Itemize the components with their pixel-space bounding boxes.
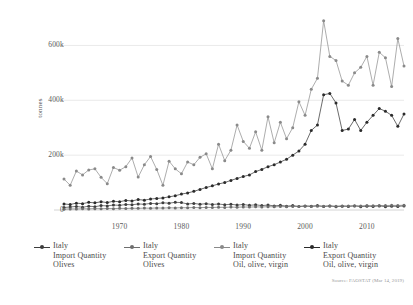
data-point [223, 203, 226, 206]
legend-item[interactable]: ItalyImport QuantityOlives [34, 241, 124, 270]
data-point [174, 206, 177, 209]
legend-item[interactable]: ItalyImport QuantityOil, olive, virgin [214, 241, 304, 270]
data-point [211, 206, 214, 209]
data-point [205, 202, 208, 205]
legend-label-line3: Oil, olive, virgin [233, 260, 288, 270]
data-point [118, 169, 121, 172]
data-point [396, 125, 399, 128]
data-point [63, 178, 66, 181]
data-point [335, 59, 338, 62]
data-point [365, 204, 368, 207]
data-point [378, 204, 381, 207]
data-point [242, 140, 245, 143]
data-point [137, 207, 140, 210]
data-point [304, 114, 307, 117]
legend-label: ItalyImport QuantityOlives [53, 241, 106, 270]
data-point [192, 190, 195, 193]
data-point [186, 206, 189, 209]
data-point [328, 92, 331, 95]
series-markers [63, 92, 406, 206]
data-point [186, 161, 189, 164]
data-point [93, 207, 96, 210]
chart-legend: ItalyImport QuantityOlivesItalyExport Qu… [34, 241, 394, 270]
data-point [192, 202, 195, 205]
legend-marker-icon [34, 243, 50, 253]
data-point [273, 163, 276, 166]
data-point [291, 126, 294, 129]
data-point [322, 93, 325, 96]
data-point [310, 129, 313, 132]
data-point [273, 205, 276, 208]
data-point [267, 115, 270, 118]
legend-label-line1: Italy [233, 241, 248, 250]
data-point [396, 204, 399, 207]
data-point [335, 102, 338, 105]
legend-label: ItalyImport QuantityOil, olive, virgin [233, 241, 288, 270]
data-point [81, 202, 84, 205]
data-point [390, 114, 393, 117]
data-point [328, 55, 331, 58]
data-point [372, 114, 375, 117]
data-point [199, 206, 202, 209]
legend-item[interactable]: ItalyExport QuantityOlives [124, 241, 214, 270]
legend-marker-icon [214, 243, 230, 253]
data-point [279, 205, 282, 208]
legend-label-line2: Import Quantity [233, 251, 288, 261]
data-point [174, 201, 177, 204]
data-point [81, 173, 84, 176]
data-point [168, 195, 171, 198]
data-point [236, 177, 239, 180]
legend-label-line2: Export Quantity [143, 251, 196, 261]
data-point [372, 204, 375, 207]
data-point [161, 207, 164, 210]
data-point [149, 198, 152, 201]
data-point [267, 165, 270, 168]
data-point [180, 193, 183, 196]
data-point [69, 203, 72, 206]
data-point [75, 208, 78, 211]
data-point [372, 84, 375, 87]
data-point [347, 84, 350, 87]
series-markers [63, 19, 406, 187]
data-point [285, 158, 288, 161]
data-point [341, 204, 344, 207]
data-point [192, 163, 195, 166]
data-point [87, 205, 90, 208]
data-point [260, 205, 263, 208]
legend-item[interactable]: ItalyExport QuantityOil, olive, virgin [304, 241, 394, 270]
data-point [390, 85, 393, 88]
data-point [124, 165, 127, 168]
data-point [161, 201, 164, 204]
data-point [297, 205, 300, 208]
data-point [137, 202, 140, 205]
data-point [211, 167, 214, 170]
series-line [64, 202, 404, 207]
legend-label-line2: Export Quantity [323, 251, 378, 261]
data-point [248, 173, 251, 176]
data-point [341, 80, 344, 83]
data-point [347, 128, 350, 131]
data-point [118, 207, 121, 210]
data-point [347, 205, 350, 208]
data-point [353, 204, 356, 207]
data-point [155, 168, 158, 171]
data-point [217, 143, 220, 146]
data-point [365, 121, 368, 124]
data-point [180, 172, 183, 175]
data-point [285, 137, 288, 140]
x-tick-label: 1980 [161, 222, 201, 231]
data-point [384, 110, 387, 113]
data-point [359, 129, 362, 132]
data-point [359, 66, 362, 69]
data-point [229, 203, 232, 206]
series-line [64, 93, 404, 204]
data-point [217, 182, 220, 185]
data-point [260, 168, 263, 171]
data-point [217, 202, 220, 205]
data-point [143, 163, 146, 166]
data-point [112, 200, 115, 203]
data-point [168, 202, 171, 205]
data-point [205, 152, 208, 155]
data-point [155, 206, 158, 209]
x-tick-label: 2000 [285, 222, 325, 231]
